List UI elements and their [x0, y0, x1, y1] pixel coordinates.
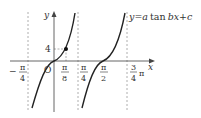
tick-neg-pi-4-den: 4 — [20, 74, 25, 83]
tick-pi-2-num: π — [101, 63, 106, 72]
tick-pi-2-den: 2 — [101, 74, 106, 83]
y-tick-4: 4 — [45, 44, 51, 54]
tan-curve-branch-1 — [32, 13, 75, 108]
tick-3pi-4-den: 4 — [131, 74, 136, 83]
tick-neg-pi-4-sign: − — [9, 66, 17, 76]
marked-point — [64, 47, 68, 51]
tick-pi-4-den: 4 — [81, 74, 86, 83]
tick-pi-8-den: 8 — [62, 74, 67, 83]
y-axis-label: y — [43, 10, 50, 20]
origin-label: O — [44, 65, 51, 75]
tick-pi-4-num: π — [81, 63, 86, 72]
tick-3pi-4-num: 3 — [131, 63, 136, 72]
tick-neg-pi-4-num: π — [20, 63, 25, 72]
x-axis-label: x — [148, 62, 153, 72]
tick-3pi-4-pi: π — [139, 69, 144, 78]
tan-curve-branch-2 — [82, 13, 125, 108]
tick-pi-8-num: π — [62, 63, 67, 72]
tan-graph: y x O 4 − π 4 π 8 π 4 π 2 3 4 π y=atanbx… — [0, 0, 201, 118]
equation-label: y=atanbx+c — [128, 11, 193, 22]
y-axis-arrow-icon — [52, 11, 57, 17]
